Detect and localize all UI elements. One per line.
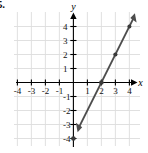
y-axis-label: y [70, 1, 76, 12]
y-tick-label: 2 [63, 50, 68, 60]
data-point [71, 136, 76, 141]
line-graph [78, 17, 134, 129]
data-point [99, 80, 104, 85]
y-tick-label: -2 [63, 106, 71, 116]
x-tick-label: 1 [85, 86, 90, 96]
coordinate-plane-plot: -4 -3 -2 -1 1 2 3 4 4 3 2 1 -1 -2 -3 -4 … [0, 0, 148, 153]
y-axis-arrow-icon [70, 13, 76, 20]
problem-number-label: 5. [0, 0, 5, 10]
y-tick-label: 4 [63, 22, 68, 32]
data-point [127, 25, 131, 29]
y-tick-label: 3 [63, 36, 68, 46]
x-tick-label: -2 [42, 86, 50, 96]
data-point [113, 52, 117, 56]
y-tick-label: -3 [63, 120, 71, 130]
x-tick-label: 3 [113, 86, 118, 96]
x-axis-label: x [137, 77, 143, 88]
y-tick-label: -4 [63, 134, 71, 144]
y-tick-label: 1 [63, 64, 68, 74]
x-tick-label: 4 [127, 86, 132, 96]
y-tick-label: -1 [63, 92, 71, 102]
x-tick-label: -3 [28, 86, 36, 96]
graph-figure: 5. [0, 0, 148, 153]
line-series [76, 13, 137, 132]
x-tick-label: -4 [14, 86, 22, 96]
x-axis-arrow-icon [131, 79, 138, 85]
